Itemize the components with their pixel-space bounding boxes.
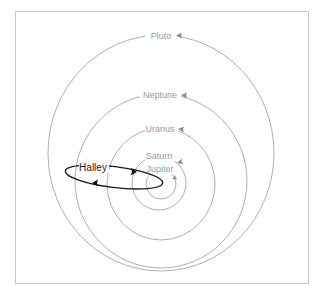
orbit-jupiter: Jupiter [144, 163, 178, 199]
arrow-neptune-icon [181, 93, 187, 99]
label-jupiter: Jupiter [146, 164, 173, 174]
label-saturn: Saturn [146, 151, 173, 161]
orbit-neptune: Neptune [75, 89, 247, 268]
orbit-saturn: Saturn [132, 150, 186, 210]
arrow-saturn-icon [177, 159, 184, 165]
label-halley: Halley [79, 162, 107, 173]
label-uranus: Uranus [145, 124, 175, 134]
label-neptune: Neptune [143, 90, 177, 100]
arrow-halley-inbound-icon [92, 180, 99, 187]
arrow-jupiter-icon [172, 175, 178, 180]
label-pluto: Pluto [151, 31, 172, 41]
orbit-uranus: Uranus [107, 123, 215, 240]
orbit-diagram: Pluto Neptune Uranus Saturn Jupiter Hall… [0, 0, 323, 297]
